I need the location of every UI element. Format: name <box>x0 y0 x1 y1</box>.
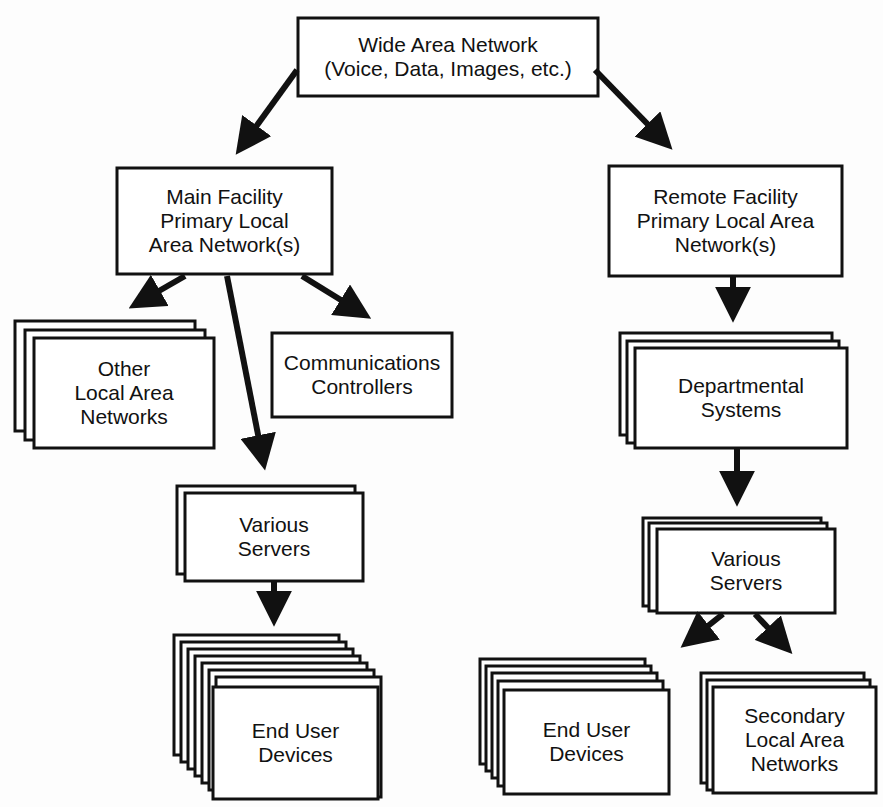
arrow-main-to-comm <box>302 276 362 313</box>
arrow-wan-to-remote <box>595 70 665 142</box>
remote-servers-label: Various Servers <box>657 529 835 613</box>
arrow-main-to-other-lans <box>138 276 185 303</box>
arrow-main-to-servers <box>227 276 263 460</box>
secondary-lans-label: Secondary Local Area Networks <box>713 687 876 793</box>
wan-label: Wide Area Network (Voice, Data, Images, … <box>298 18 598 96</box>
main-lan-label: Main Facility Primary Local Area Network… <box>117 168 332 274</box>
diagram-canvas: Wide Area Network (Voice, Data, Images, … <box>0 0 883 807</box>
other-lans-label: Other Local Area Networks <box>34 338 214 448</box>
remote-end-user-label: End User Devices <box>504 690 669 794</box>
main-end-user-label: End User Devices <box>213 687 378 799</box>
arrow-servers-to-remote-end-user <box>689 614 723 641</box>
main-servers-label: Various Servers <box>185 493 363 581</box>
comm-controllers-label: Communications Controllers <box>272 333 452 417</box>
arrow-wan-to-main <box>242 70 297 146</box>
arrow-servers-to-secondary <box>755 614 785 646</box>
remote-lan-label: Remote Facility Primary Local Area Netwo… <box>609 166 842 276</box>
dept-systems-label: Departmental Systems <box>635 348 847 448</box>
